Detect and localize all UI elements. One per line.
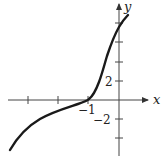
y-tick-label-2: 2 [105,75,113,89]
y-tick-label-neg2: −2 [93,113,111,127]
x-axis-label: x [153,92,161,107]
y-axis-label: y [123,0,132,14]
function-graph: x y −1 2 −2 [0,0,167,162]
